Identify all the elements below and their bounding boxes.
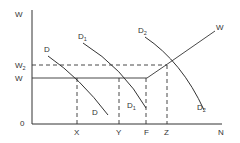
d-bottom-label: D: [92, 108, 98, 117]
d2-bottom-label: D2: [197, 103, 206, 113]
x-point-label: X: [74, 128, 80, 137]
d1-bottom-label: D1: [127, 101, 136, 111]
d-top-label: D: [44, 45, 50, 54]
z-point-label: Z: [164, 128, 169, 137]
origin-label: 0: [20, 119, 25, 128]
d2-top-label: D2: [138, 26, 147, 36]
demand-curve-d1: [83, 43, 146, 108]
y-point-label: Y: [116, 128, 122, 137]
w-label: W: [15, 74, 23, 83]
f-point-label: F: [144, 128, 149, 137]
x-axis-label: N: [218, 128, 224, 137]
supply-curve-label: W: [216, 23, 224, 32]
labor-demand-diagram: W N 0 W2 W W D D D1 D1 D2 D2 X Y F Z: [0, 0, 240, 143]
d1-top-label: D1: [78, 32, 87, 42]
w2-label: W2: [15, 61, 26, 71]
y-axis-label: W: [15, 10, 23, 19]
